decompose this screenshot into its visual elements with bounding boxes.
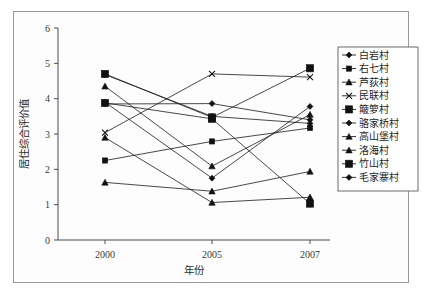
- y-tick-label: 6: [45, 23, 50, 34]
- x-tick-label: 2007: [300, 249, 320, 260]
- data-point-square-large: [306, 200, 313, 207]
- chart-figure: 0123456200020052007年份居住综合评价值 白岩村右七村芦荻村民联…: [0, 0, 425, 300]
- data-point-square: [346, 66, 351, 71]
- data-point-triangle: [209, 163, 215, 169]
- data-point-triangle: [307, 168, 313, 174]
- series-0: [102, 101, 313, 123]
- axes: [54, 28, 330, 244]
- legend-label: 白岩村: [359, 49, 389, 61]
- series-line: [105, 86, 310, 166]
- series-line: [105, 102, 310, 178]
- data-point-square-large: [345, 160, 352, 167]
- legend-label: 民联村: [359, 89, 389, 101]
- x-axis-title: 年份: [184, 264, 205, 276]
- series-line: [105, 138, 310, 203]
- y-tick-label: 3: [45, 129, 50, 140]
- legend-label: 竹山村: [359, 157, 389, 169]
- y-tick-label: 0: [45, 235, 50, 246]
- data-point-diamond: [209, 101, 215, 107]
- series-line: [105, 103, 310, 204]
- legend-label: 芦荻村: [359, 76, 389, 88]
- series-5: [102, 99, 313, 181]
- series-line: [105, 128, 310, 161]
- line-chart: 0123456200020052007年份居住综合评价值 白岩村右七村芦荻村民联…: [0, 0, 425, 300]
- chart-legend[interactable]: 白岩村右七村芦荻村民联村簸箩村骆家桥村高山堡村洛海村竹山村毛家寨村: [338, 47, 418, 191]
- y-tick-label: 4: [45, 93, 50, 104]
- series-7: [102, 168, 313, 194]
- series-line: [105, 104, 310, 120]
- series-4: [101, 65, 313, 121]
- y-tick-label: 5: [45, 58, 50, 69]
- data-point-square: [209, 139, 214, 144]
- data-point-square: [102, 158, 107, 163]
- series-6: [102, 134, 313, 205]
- x-tick-label: 2000: [95, 249, 115, 260]
- legend-label: 簸箩村: [359, 103, 389, 115]
- legend-label: 右七村: [359, 62, 389, 74]
- legend-label: 高山堡村: [359, 130, 399, 142]
- plot-area: [101, 65, 313, 208]
- series-2: [102, 83, 313, 169]
- data-point-diamond: [307, 103, 313, 109]
- data-point-triangle: [102, 179, 108, 185]
- legend-label: 骆家桥村: [359, 117, 399, 129]
- data-point-square-large: [345, 106, 352, 113]
- data-point-triangle: [102, 83, 108, 89]
- data-point-diamond: [209, 175, 215, 181]
- series-1: [102, 125, 312, 163]
- data-point-triangle: [307, 111, 313, 117]
- series-line: [105, 68, 310, 117]
- data-point-square-large: [101, 99, 108, 106]
- x-tick-label: 2005: [202, 249, 222, 260]
- data-point-square-large: [306, 65, 313, 72]
- y-tick-label: 2: [45, 164, 50, 175]
- legend-label: 毛家寨村: [359, 171, 399, 183]
- legend-label: 洛海村: [359, 144, 389, 156]
- y-tick-label: 1: [45, 199, 50, 210]
- series-line: [105, 171, 310, 191]
- y-axis-title: 居住综合评价值: [18, 98, 30, 169]
